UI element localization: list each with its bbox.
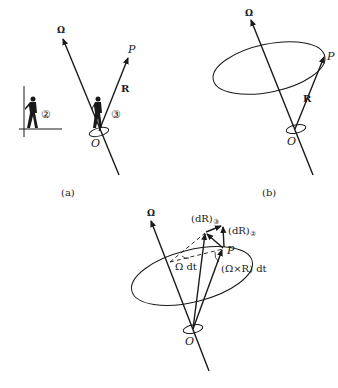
omega-axis [151,221,209,371]
construction-lines [170,233,223,262]
trajectory-ellipse [126,236,259,316]
figure-c: Ω P (dR)③ (dR)② Ω dt (Ω×R) dt O [126,208,267,371]
dr-rotating-subscript: ③ [213,218,219,226]
omega-label: Ω [245,8,253,18]
figure-a: ② Ω P R ③ O (a) [19,25,136,198]
origin-label: O [185,335,194,348]
dr-fixed-label: (dR)② [228,225,256,238]
origin-label: O [91,137,100,150]
dr-rotating-vector [206,226,221,232]
point-p-label: P [127,43,136,56]
dr-fixed-vector [223,227,224,247]
angle-label: Ω dt [175,261,197,272]
r-label: R [303,93,312,104]
spin-indicator [285,123,306,135]
caption-a: (a) [61,187,75,198]
caption-b: (b) [262,187,276,198]
omega-label: Ω [147,208,155,218]
observer-2-label: ② [41,108,51,121]
figure-b: Ω P R O (b) [208,8,335,198]
r-label: R [121,83,130,94]
dr-rotating-label: (dR)③ [191,213,219,226]
point-p-label: P [326,50,335,63]
omega-axis [63,39,119,175]
dr-fixed-subscript: ② [250,230,256,238]
omega-label: Ω [57,25,65,35]
origin-label: O [287,135,296,148]
rotating-frame-diagram: ② Ω P R ③ O (a) Ω P R O (b) [0,0,338,388]
dr-rotating-text: (dR) [191,213,213,224]
point-p-label: P [226,244,235,257]
dr-fixed-text: (dR) [228,225,250,236]
omega-cross-r-vector [207,234,223,248]
cross-product-label: (Ω×R) dt [221,263,267,274]
trajectory-ellipse [208,33,329,104]
observer-3-label: ③ [111,108,121,121]
fixed-observer-icon [25,97,38,129]
angle-arc [182,256,189,259]
